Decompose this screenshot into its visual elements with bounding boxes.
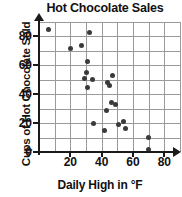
data-point: [79, 43, 84, 48]
gridline-horizontal: [39, 138, 180, 139]
data-point: [68, 46, 73, 51]
gridline-horizontal: [39, 65, 180, 66]
data-point: [82, 76, 87, 81]
gridline-vertical: [180, 22, 181, 152]
y-axis-arrow-icon: [34, 13, 44, 21]
data-point: [123, 126, 128, 131]
data-point: [107, 83, 112, 88]
gridline-horizontal: [39, 51, 180, 52]
x-tick-label: 20: [57, 155, 83, 169]
chart-title: Hot Chocolate Sales: [30, 1, 180, 15]
x-tick-label: 80: [151, 155, 177, 169]
y-tick-label: 60: [6, 58, 32, 72]
gridline-vertical: [149, 22, 150, 152]
x-axis-line: [38, 151, 178, 153]
data-point: [116, 122, 121, 127]
gridline-horizontal: [39, 123, 180, 124]
x-tick-label: 60: [120, 155, 146, 169]
data-point: [110, 73, 115, 78]
gridline-horizontal: [39, 22, 180, 23]
gridline-horizontal: [39, 109, 180, 110]
data-point: [146, 135, 151, 140]
y-tick-label: 20: [6, 116, 32, 130]
gridline-vertical: [117, 22, 118, 152]
data-point: [91, 121, 96, 126]
gridline-vertical: [164, 22, 165, 152]
y-tick-mark: [33, 93, 39, 95]
data-point: [85, 59, 90, 64]
data-point: [90, 77, 95, 82]
y-tick-mark: [33, 64, 39, 66]
y-tick-mark: [33, 35, 39, 37]
data-point: [84, 70, 89, 75]
y-tick-mark: [33, 151, 39, 153]
gridline-horizontal: [39, 94, 180, 95]
gridline-vertical: [55, 22, 56, 152]
x-tick-label: 40: [89, 155, 115, 169]
data-point: [102, 128, 107, 133]
y-axis-line: [38, 19, 40, 155]
scatter-chart: Hot Chocolate Sales Cups of Hot Chocolat…: [0, 0, 182, 197]
gridline-horizontal: [39, 36, 180, 37]
plot-area: [39, 22, 180, 152]
y-tick-label: 40: [6, 87, 32, 101]
gridline-vertical: [70, 22, 71, 152]
gridline-vertical: [133, 22, 134, 152]
data-point: [104, 108, 109, 113]
data-point: [87, 30, 92, 35]
data-point: [46, 27, 51, 32]
data-point: [85, 85, 90, 90]
x-axis-label: Daily High in °F: [20, 178, 180, 192]
y-tick-label: 80: [6, 29, 32, 43]
y-tick-label: 0: [6, 145, 32, 159]
y-tick-mark: [33, 122, 39, 124]
